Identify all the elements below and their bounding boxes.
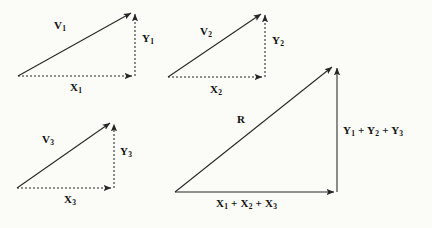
triangle-1-group (18, 13, 135, 76)
vector-diagram-canvas: V1 Y1 X1 V2 Y2 X2 V3 Y3 X3 R Y1 + Y2 + Y… (0, 0, 432, 228)
vector-v2-line (168, 14, 261, 77)
label-x-sum: X1 + X2 + X3 (216, 198, 277, 209)
label-x1: X1 (70, 82, 82, 93)
triangle-resultant-group (175, 67, 337, 192)
triangle-3-group (17, 123, 114, 188)
label-v2: V2 (200, 26, 212, 37)
vector-r-line (175, 67, 332, 192)
label-r: R (237, 114, 245, 125)
label-y-sum: Y1 + Y2 + Y3 (343, 125, 403, 136)
label-x2: X2 (210, 84, 222, 95)
label-x3: X3 (64, 194, 76, 205)
label-v1: V1 (54, 20, 66, 31)
label-y1: Y1 (142, 33, 154, 44)
label-y3: Y3 (120, 146, 132, 157)
label-v3: V3 (42, 134, 54, 145)
vector-v1-line (18, 13, 131, 76)
label-y2: Y2 (272, 35, 284, 46)
triangle-2-group (168, 14, 265, 77)
vector-v3-line (17, 123, 110, 188)
